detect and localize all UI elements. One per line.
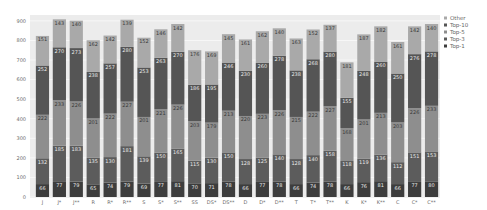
x-tick-label: K** <box>377 199 386 205</box>
bar-R*[interactable]: 74130222257142 <box>104 36 117 197</box>
segment-value-label: 130 <box>207 158 217 164</box>
segment-top-10[interactable] <box>256 63 269 114</box>
segment-top-10[interactable] <box>374 62 387 113</box>
legend[interactable]: OtherTop-10Top-5Top-3Top-1 <box>444 15 469 50</box>
bar-K**[interactable]: 81136213260182 <box>374 26 387 197</box>
segment-top-5[interactable] <box>273 110 286 154</box>
legend-item-top-5[interactable]: Top-5 <box>444 29 465 36</box>
segment-value-label: 78 <box>225 182 231 188</box>
segment-top-10[interactable] <box>290 70 303 117</box>
bar-C**[interactable]: 80153233278140 <box>425 24 438 197</box>
segment-top-10[interactable] <box>120 47 133 102</box>
segment-value-label: 278 <box>427 52 437 58</box>
segment-top-10[interactable] <box>154 58 167 109</box>
segment-top-5[interactable] <box>256 114 269 158</box>
bar-S**[interactable]: 81165226270142 <box>171 24 184 197</box>
segment-value-label: 150 <box>156 153 166 159</box>
segment-value-label: 221 <box>156 110 166 116</box>
segment-value-label: 201 <box>359 120 369 126</box>
segment-top-5[interactable] <box>323 106 336 150</box>
bar-K[interactable]: 66118168155181 <box>340 62 353 197</box>
legend-item-top-1[interactable]: Top-1 <box>444 43 465 50</box>
segment-top-10[interactable] <box>357 71 370 120</box>
segment-value-label: 76 <box>361 183 367 189</box>
legend-swatch-icon <box>444 31 447 34</box>
bar-D**[interactable]: 78140226278140 <box>273 28 286 197</box>
segment-value-label: 213 <box>376 113 386 119</box>
bar-T*[interactable]: 74140222268152 <box>307 29 320 197</box>
segment-top-5[interactable] <box>171 105 184 149</box>
segment-value-label: 162 <box>88 41 98 47</box>
segment-top-5[interactable] <box>120 102 133 146</box>
bar-DS*[interactable]: 71130179195169 <box>205 51 218 197</box>
bar-C[interactable]: 66112203250161 <box>391 42 404 197</box>
segment-top-10[interactable] <box>70 48 83 101</box>
segment-value-label: 253 <box>139 68 149 74</box>
segment-value-label: 71 <box>208 184 214 190</box>
y-tick-label: 300 <box>16 135 26 141</box>
segment-value-label: 222 <box>105 114 115 120</box>
bar-R**[interactable]: 79181227280139 <box>120 20 133 197</box>
legend-item-top-3[interactable]: Top-3 <box>444 36 465 43</box>
bar-D*[interactable]: 77125223260162 <box>256 31 269 197</box>
bar-T**[interactable]: 78158227280137 <box>323 25 336 197</box>
bar-J*[interactable]: 77185233270143 <box>53 19 66 197</box>
segment-top-5[interactable] <box>104 114 117 157</box>
segment-top-10[interactable] <box>171 52 184 105</box>
bar-J**[interactable]: 79183226273140 <box>70 21 83 197</box>
y-tick-label: 0 <box>23 194 26 200</box>
bar-R[interactable]: 65135201238162 <box>87 40 100 197</box>
segment-top-5[interactable] <box>307 112 320 155</box>
y-tick-label: 700 <box>16 57 26 63</box>
legend-label: Top-1 <box>449 43 465 50</box>
bar-S[interactable]: 69139201253152 <box>137 38 150 197</box>
x-tick-label: R <box>91 199 95 205</box>
segment-top-5[interactable] <box>70 101 83 145</box>
x-tick-label: T <box>294 199 299 205</box>
segment-value-label: 276 <box>410 55 420 61</box>
bar-DS**[interactable]: 78150213246145 <box>222 34 235 197</box>
segment-value-label: 226 <box>72 102 82 108</box>
segment-value-label: 263 <box>156 58 166 64</box>
segment-value-label: 142 <box>173 25 183 31</box>
segment-top-5[interactable] <box>36 115 49 158</box>
segment-top-10[interactable] <box>425 51 438 105</box>
segment-value-label: 230 <box>241 71 251 77</box>
x-tick-label: DS** <box>223 199 236 205</box>
segment-value-label: 165 <box>173 149 183 155</box>
bar-S*[interactable]: 77150221263146 <box>154 29 167 197</box>
segment-top-10[interactable] <box>137 67 150 117</box>
segment-value-label: 183 <box>72 146 82 152</box>
segment-top-10[interactable] <box>36 65 49 114</box>
segment-top-10[interactable] <box>53 47 66 100</box>
segment-top-10[interactable] <box>408 54 421 108</box>
segment-top-5[interactable] <box>408 108 421 152</box>
legend-item-other[interactable]: Other <box>444 15 466 21</box>
segment-top-10[interactable] <box>222 63 235 111</box>
segment-top-10[interactable] <box>391 74 404 123</box>
x-tick-label: S** <box>174 199 183 205</box>
segment-value-label: 79 <box>124 182 130 188</box>
segment-value-label: 226 <box>410 109 420 115</box>
segment-top-10[interactable] <box>323 52 336 107</box>
bar-D[interactable]: 66128220230161 <box>239 39 252 197</box>
segment-top-10[interactable] <box>104 63 117 113</box>
segment-top-10[interactable] <box>273 56 286 110</box>
bar-T[interactable]: 66128215238163 <box>290 38 303 197</box>
segment-value-label: 260 <box>376 62 386 68</box>
x-tick-label: DS* <box>207 199 217 205</box>
segment-top-10[interactable] <box>307 59 320 111</box>
bar-C*[interactable]: 77151226276142 <box>408 26 421 197</box>
segment-value-label: 136 <box>376 155 386 161</box>
segment-top-5[interactable] <box>425 106 438 152</box>
segment-top-10[interactable] <box>87 72 100 119</box>
segment-value-label: 132 <box>38 159 48 165</box>
legend-label: Top-3 <box>449 36 465 43</box>
bar-SS[interactable]: 70115203186176 <box>188 50 201 197</box>
legend-item-top-10[interactable]: Top-10 <box>444 22 469 29</box>
bar-K*[interactable]: 76119201248187 <box>357 34 370 197</box>
segment-value-label: 280 <box>122 47 132 53</box>
segment-top-10[interactable] <box>239 71 252 116</box>
bar-J[interactable]: 66132222252151 <box>36 36 49 197</box>
segment-top-5[interactable] <box>53 100 66 146</box>
